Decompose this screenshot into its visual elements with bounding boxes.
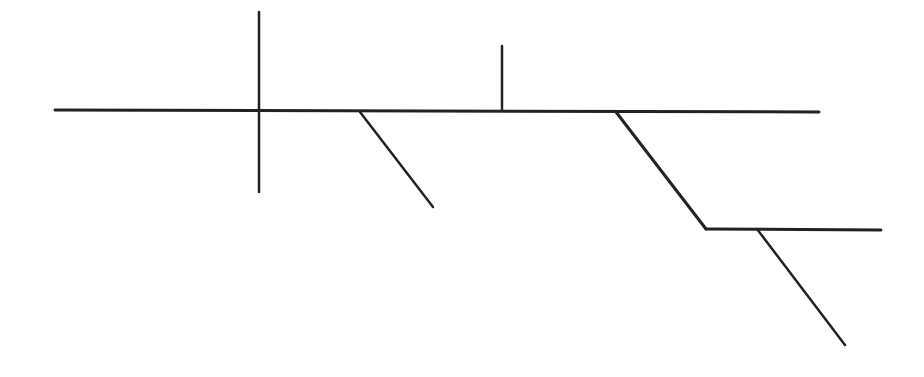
diagram-background [0, 0, 924, 377]
prepositional-object-line-line [706, 229, 881, 230]
baseline-line [55, 110, 819, 112]
sentence-diagram [0, 0, 924, 377]
